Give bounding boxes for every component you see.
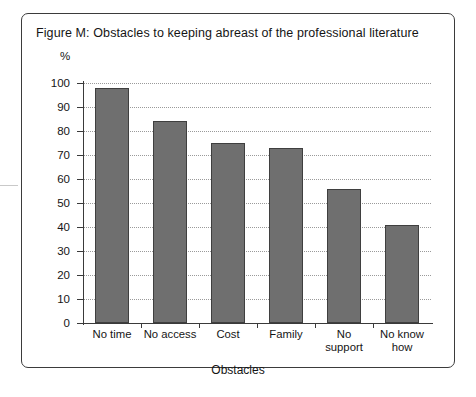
- y-axis-tick-mark: [77, 275, 83, 276]
- y-axis-tick-mark: [77, 299, 83, 300]
- y-axis-line: [83, 81, 84, 325]
- bar: [95, 88, 130, 323]
- gridline: [83, 107, 431, 108]
- gridline: [83, 251, 431, 252]
- gridline: [83, 299, 431, 300]
- x-axis-title: Obstacles: [22, 363, 454, 377]
- y-axis-tick-mark: [77, 203, 83, 204]
- bar: [269, 148, 304, 323]
- bar: [153, 121, 188, 323]
- x-axis-tick-mark: [373, 323, 374, 328]
- y-axis-tick-label: 40: [30, 221, 70, 233]
- gridline: [83, 83, 431, 84]
- x-axis-tick-label: No know how: [380, 328, 424, 354]
- y-axis-tick-mark: [77, 83, 83, 84]
- y-axis-tick-label: 60: [30, 173, 70, 185]
- y-axis-tick-mark: [77, 155, 83, 156]
- y-axis-tick-mark: [77, 323, 83, 324]
- y-axis-tick-label: 90: [30, 101, 70, 113]
- gridline: [83, 155, 431, 156]
- y-axis-unit-label: %: [60, 50, 70, 62]
- y-axis-tick-label: 100: [30, 77, 70, 89]
- y-axis-tick-mark: [77, 227, 83, 228]
- gridline: [83, 203, 431, 204]
- y-axis-tick-mark: [77, 179, 83, 180]
- x-axis-tick-label: No support: [325, 328, 363, 354]
- x-axis-tick-label: Cost: [216, 328, 239, 341]
- gridline: [83, 131, 431, 132]
- gridline: [83, 275, 431, 276]
- x-axis-tick-mark: [315, 323, 316, 328]
- y-axis-tick-label: 30: [30, 245, 70, 257]
- x-axis-tick-label: No time: [93, 328, 132, 341]
- y-axis-tick-mark: [77, 251, 83, 252]
- y-axis-tick-label: 80: [30, 125, 70, 137]
- y-axis-tick-label: 70: [30, 149, 70, 161]
- chart-title: Figure M: Obstacles to keeping abreast o…: [36, 26, 419, 40]
- bar: [211, 143, 246, 323]
- x-axis-tick-label: Family: [269, 328, 302, 341]
- y-axis-tick-label: 0: [30, 317, 70, 329]
- x-axis-tick-mark: [141, 323, 142, 328]
- gridline: [83, 179, 431, 180]
- x-axis-tick-mark: [199, 323, 200, 328]
- x-axis-tick-label: No access: [144, 328, 197, 341]
- y-axis-tick-label: 10: [30, 293, 70, 305]
- page-scan-edge-line: [0, 185, 18, 186]
- bar: [327, 189, 362, 323]
- gridline: [83, 227, 431, 228]
- y-axis-tick-label: 20: [30, 269, 70, 281]
- bar: [385, 225, 420, 323]
- plot-area: [83, 83, 431, 323]
- y-axis-tick-mark: [77, 107, 83, 108]
- y-axis-tick-mark: [77, 131, 83, 132]
- x-axis-tick-mark: [257, 323, 258, 328]
- figure-frame: Figure M: Obstacles to keeping abreast o…: [21, 13, 455, 368]
- y-axis-tick-label: 50: [30, 197, 70, 209]
